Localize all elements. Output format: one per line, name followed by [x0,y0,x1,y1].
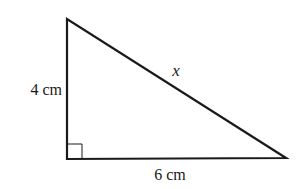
horizontal-side-label: 6 cm [154,166,186,183]
right-triangle-diagram: 4 cm x 6 cm [0,0,303,189]
hypotenuse-label: x [171,61,180,80]
vertical-side-label: 4 cm [30,81,62,98]
right-angle-marker [67,144,82,159]
triangle-outline [67,19,286,159]
